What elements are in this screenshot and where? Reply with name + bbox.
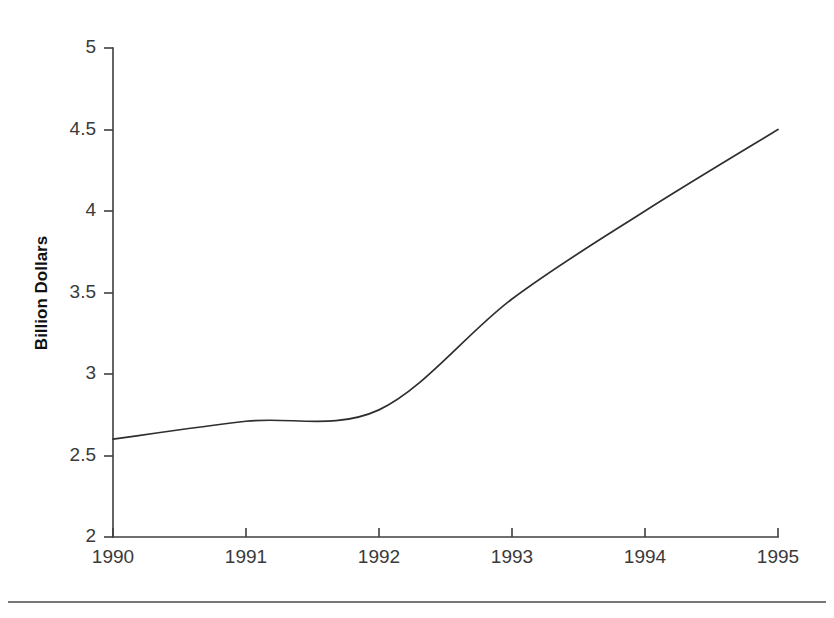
x-tick-label-1992: 1992 (358, 546, 400, 567)
line-chart: 5 4.5 4 3.5 3 2.5 2 1990 1991 1992 1993 … (0, 0, 834, 618)
x-tick-label-1993: 1993 (491, 546, 533, 567)
y-tick-label-4-5: 4.5 (70, 118, 96, 139)
y-tick-label-2: 2 (85, 525, 96, 546)
x-tick-label-1995: 1995 (757, 546, 799, 567)
y-tick-label-3: 3 (85, 362, 96, 383)
x-tick-label-1990: 1990 (92, 546, 134, 567)
y-tick-label-3-5: 3.5 (70, 281, 96, 302)
y-tick-label-4: 4 (85, 199, 96, 220)
chart-figure: 5 4.5 4 3.5 3 2.5 2 1990 1991 1992 1993 … (0, 0, 834, 618)
y-axis-title: Billion Dollars (32, 236, 51, 350)
x-tick-label-1991: 1991 (225, 546, 267, 567)
chart-background (0, 0, 834, 618)
x-tick-label-1994: 1994 (624, 546, 667, 567)
y-tick-label-2-5: 2.5 (70, 444, 96, 465)
y-tick-label-5: 5 (85, 36, 96, 57)
